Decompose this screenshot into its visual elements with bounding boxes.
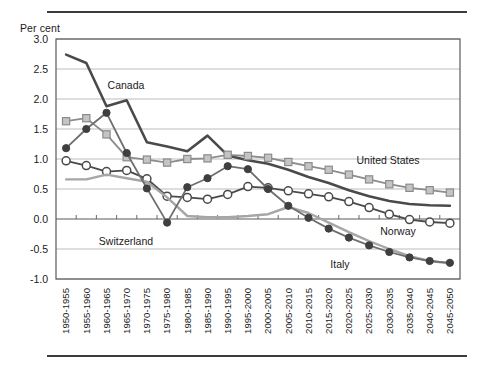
data-point-marker [103, 109, 110, 116]
data-point-marker [204, 195, 212, 203]
data-point-marker [285, 158, 292, 165]
x-axis-tick-label: 1950-1955 [60, 288, 71, 334]
data-point-marker [224, 151, 231, 158]
y-axis-tick-label: 1.0 [33, 153, 48, 165]
data-point-marker [366, 176, 373, 183]
data-point-marker [63, 145, 70, 152]
data-point-marker [83, 115, 90, 122]
data-point-marker [244, 166, 251, 173]
x-axis-tick-label: 2020-2025 [343, 288, 354, 334]
data-point-marker [164, 159, 171, 166]
x-axis-tick-label: 2000-2005 [263, 288, 274, 334]
x-axis-tick-label: 1995-2000 [242, 288, 253, 334]
x-axis-tick-label: 2030-2035 [384, 288, 395, 334]
y-axis-tick-label: 2.0 [33, 93, 48, 105]
x-axis-tick-label: 1985-1990 [202, 288, 213, 334]
series-label-norway: Norway [380, 225, 416, 237]
series-label-united-states: United States [356, 154, 419, 166]
data-point-marker [63, 118, 70, 125]
x-axis-tick-label: 1960-1965 [101, 288, 112, 334]
data-point-marker [204, 155, 211, 162]
data-point-marker [406, 184, 413, 191]
y-axis-tick-label: 2.5 [33, 63, 48, 75]
data-point-marker [285, 202, 292, 209]
x-axis-tick-label: 2035-2040 [404, 288, 415, 334]
data-point-marker [426, 257, 433, 264]
x-axis-tick-label: 1970-1975 [141, 288, 152, 334]
data-point-marker [143, 156, 150, 163]
x-axis-tick-label: 2005-2010 [283, 288, 294, 334]
data-point-marker [365, 204, 373, 212]
y-axis-tick-label: 1.5 [33, 123, 48, 135]
y-axis-tick-label: -0.5 [30, 243, 48, 255]
data-point-marker [305, 190, 313, 198]
x-axis-tick-label: 1980-1985 [182, 288, 193, 334]
data-point-marker [204, 175, 211, 182]
data-point-marker [406, 254, 413, 261]
data-point-marker [446, 189, 453, 196]
data-point-marker [164, 219, 171, 226]
data-point-marker [265, 185, 272, 192]
data-point-marker [305, 163, 312, 170]
y-axis-ticks: 3.02.52.01.51.00.50.0-0.5-1.0 [30, 33, 48, 285]
data-point-marker [325, 225, 332, 232]
data-point-marker [224, 190, 232, 198]
x-axis-tick-label: 1990-1995 [222, 288, 233, 334]
x-axis-tick-label: 2010-2015 [303, 288, 314, 334]
data-point-marker [325, 193, 333, 201]
data-point-marker [386, 248, 393, 255]
data-point-marker [62, 157, 70, 165]
data-point-marker [103, 131, 110, 138]
data-point-marker [305, 214, 312, 221]
data-point-marker [123, 149, 130, 156]
data-point-marker [345, 234, 352, 241]
x-axis-tick-label: 1955-1960 [81, 288, 92, 334]
data-point-marker [244, 152, 251, 159]
data-point-marker [83, 125, 90, 132]
data-point-marker [284, 187, 292, 195]
x-axis-tick-label: 1965-1970 [121, 288, 132, 334]
data-point-marker [406, 216, 414, 224]
y-axis-tick-label: -1.0 [30, 273, 48, 285]
data-point-marker [385, 210, 393, 218]
data-point-marker [426, 187, 433, 194]
data-point-marker [426, 218, 434, 226]
data-point-marker [123, 166, 131, 174]
data-point-marker [345, 198, 353, 206]
x-axis-tick-label: 2040-2045 [424, 288, 435, 334]
data-point-marker [143, 185, 150, 192]
x-axis-tick-label: 2045-2050 [444, 288, 455, 334]
y-axis-tick-label: 3.0 [33, 33, 48, 45]
data-point-marker [446, 219, 454, 227]
data-point-marker [446, 259, 453, 266]
x-axis-tick-label: 2015-2020 [323, 288, 334, 334]
series-label-italy: Italy [330, 258, 350, 270]
data-point-marker [82, 162, 90, 170]
x-axis-tick-label: 2025-2030 [364, 288, 375, 334]
data-point-marker [345, 171, 352, 178]
x-axis-labels: 1950-19551955-19601960-19651965-19701970… [60, 288, 455, 334]
data-point-marker [325, 166, 332, 173]
data-point-marker [183, 193, 191, 201]
data-point-marker [265, 154, 272, 161]
y-axis-tick-label: 0.5 [33, 183, 48, 195]
data-point-marker [224, 163, 231, 170]
data-point-marker [184, 155, 191, 162]
data-point-marker [366, 242, 373, 249]
series-label-canada: Canada [108, 79, 145, 91]
data-point-marker [386, 181, 393, 188]
data-point-marker [244, 183, 252, 191]
line-chart: 3.02.52.01.51.00.50.0-0.5-1.0 1950-19551… [0, 0, 484, 366]
x-axis-tick-label: 1975-1980 [162, 288, 173, 334]
footer-rule-bottom [47, 355, 467, 357]
y-axis-tick-label: 0.0 [33, 213, 48, 225]
series-label-switzerland: Switzerland [99, 235, 153, 247]
data-point-marker [184, 184, 191, 191]
